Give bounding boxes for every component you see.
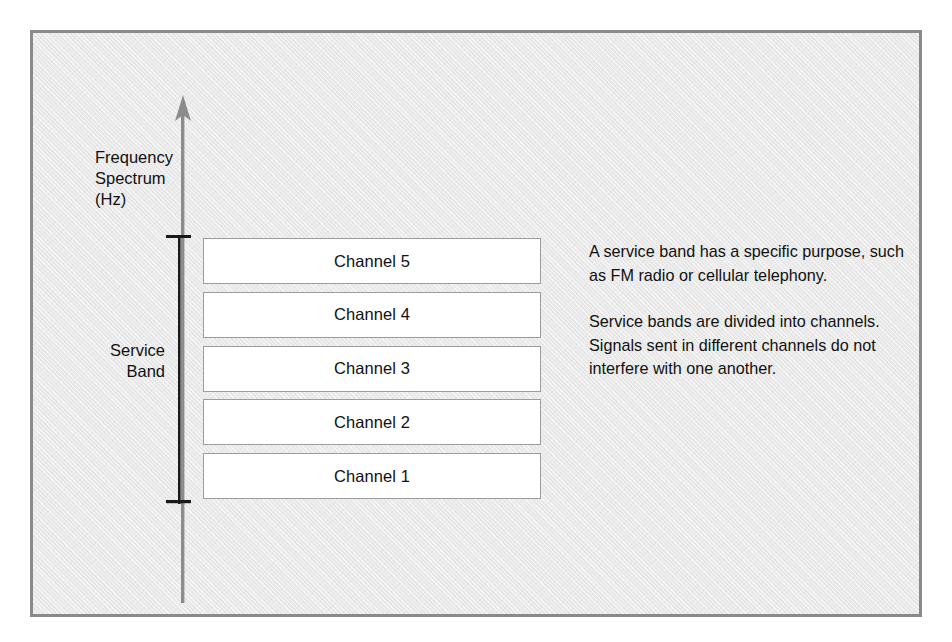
channel-box: Channel 2 <box>203 399 541 445</box>
note-paragraph: A service band has a specific purpose, s… <box>589 240 919 287</box>
figure-frame: Frequency Spectrum (Hz) Service Band Cha… <box>30 30 922 617</box>
channel-box: Channel 5 <box>203 238 541 284</box>
axis-label-line-1: Frequency <box>95 147 181 168</box>
service-band-label-line-1: Service <box>53 340 165 361</box>
service-band-label: Service Band <box>53 340 165 382</box>
spectrum-diagram: Frequency Spectrum (Hz) Service Band Cha… <box>0 0 952 642</box>
axis-label-line-2: Spectrum <box>95 168 181 189</box>
channel-box: Channel 3 <box>203 346 541 392</box>
channel-label: Channel 1 <box>334 467 410 486</box>
channel-label: Channel 2 <box>334 413 410 432</box>
bracket-icon <box>161 231 193 507</box>
note-paragraph: Service bands are divided into channels.… <box>589 310 919 381</box>
channel-label: Channel 5 <box>334 252 410 271</box>
channel-label: Channel 3 <box>334 359 410 378</box>
channel-box: Channel 1 <box>203 453 541 499</box>
channel-stack: Channel 5 Channel 4 Channel 3 Channel 2 … <box>203 238 541 499</box>
notes-column: A service band has a specific purpose, s… <box>589 240 919 381</box>
axis-label: Frequency Spectrum (Hz) <box>95 147 181 210</box>
channel-box: Channel 4 <box>203 292 541 338</box>
channel-label: Channel 4 <box>334 305 410 324</box>
axis-label-line-3: (Hz) <box>95 189 181 210</box>
service-band-label-line-2: Band <box>53 361 165 382</box>
